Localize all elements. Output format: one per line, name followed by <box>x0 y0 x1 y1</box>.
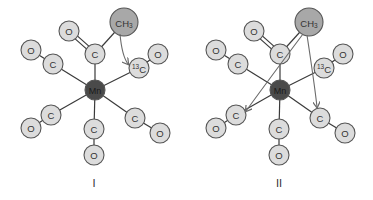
carbon-atom-4-symbol: C <box>276 124 283 135</box>
manganese-atom: Mn <box>85 80 105 100</box>
carbon-atom-3: C <box>125 108 145 128</box>
oxygen-atom-2: O <box>21 118 41 138</box>
oxygen-atom-0: O <box>206 40 226 60</box>
structure-label: II <box>276 177 282 189</box>
oxygen-atom-1-symbol: O <box>154 49 161 60</box>
manganese-atom: Mn <box>270 80 290 100</box>
acyl-oxygen-atom-symbol: O <box>250 26 257 37</box>
methyl-group: CH3 <box>295 8 323 36</box>
oxygen-atom-0-symbol: O <box>212 45 219 56</box>
carbon-atom-3-symbol: C <box>132 113 139 124</box>
carbon-atom-3-symbol: C <box>317 113 324 124</box>
oxygen-atom-1: O <box>148 44 168 64</box>
oxygen-atom-3-symbol: O <box>156 128 163 139</box>
carbon-atom-0-symbol: C <box>50 59 57 70</box>
structure-label: I <box>92 177 95 189</box>
oxygen-atom-2-symbol: O <box>212 123 219 134</box>
manganese-atom-symbol: Mn <box>274 86 287 96</box>
carbon-atom-0: C <box>228 54 248 74</box>
acyl-carbon-atom: C <box>270 44 290 64</box>
carbon-atom-3: C <box>310 108 330 128</box>
oxygen-atom-4: O <box>84 145 104 165</box>
methyl-group: CH3 <box>110 8 138 36</box>
carbon-atom-2: C <box>226 105 246 125</box>
acyl-carbon-atom-symbol: C <box>277 49 284 60</box>
mn-carbonyl-diagram: OCO13COCOCOCOCCH3MnIOCO13COCOCOCOCCH3MnI… <box>0 0 373 200</box>
oxygen-atom-1-symbol: O <box>339 49 346 60</box>
oxygen-atom-0: O <box>21 40 41 60</box>
structure-I: OCO13COCOCOCOCCH3MnI <box>21 8 170 189</box>
migration-arrow-to-13CO <box>120 34 128 64</box>
carbon-atom-0-symbol: C <box>235 59 242 70</box>
carbon-atom-2-symbol: C <box>233 110 240 121</box>
oxygen-atom-3: O <box>335 123 355 143</box>
carbon-atom-0: C <box>43 54 63 74</box>
acyl-carbon-atom: C <box>85 44 105 64</box>
acyl-oxygen-atom: O <box>244 21 264 41</box>
oxygen-atom-2: O <box>206 118 226 138</box>
carbon-13-atom: 13C <box>314 58 334 78</box>
oxygen-atom-4-symbol: O <box>275 150 282 161</box>
oxygen-atom-1: O <box>333 44 353 64</box>
carbon-atom-2: C <box>41 105 61 125</box>
oxygen-atom-3-symbol: O <box>341 128 348 139</box>
carbon-atom-4: C <box>269 119 289 139</box>
carbon-atom-4-symbol: C <box>91 124 98 135</box>
structure-II: OCO13COCOCOCOCCH3MnII <box>206 8 355 189</box>
oxygen-atom-3: O <box>150 123 170 143</box>
oxygen-atom-4-symbol: O <box>90 150 97 161</box>
oxygen-atom-2-symbol: O <box>27 123 34 134</box>
acyl-carbon-atom-symbol: C <box>92 49 99 60</box>
acyl-oxygen-atom-symbol: O <box>65 26 72 37</box>
carbon-atom-4: C <box>84 119 104 139</box>
oxygen-atom-0-symbol: O <box>27 45 34 56</box>
oxygen-atom-4: O <box>269 145 289 165</box>
carbon-atom-2-symbol: C <box>48 110 55 121</box>
carbon-13-atom: 13C <box>129 58 149 78</box>
manganese-atom-symbol: Mn <box>89 86 102 96</box>
acyl-oxygen-atom: O <box>59 21 79 41</box>
